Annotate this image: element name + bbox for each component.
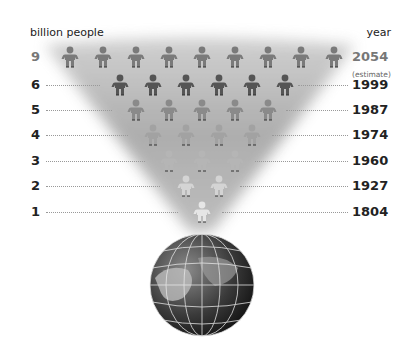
year-column-label: year (366, 26, 391, 39)
person-icon (193, 46, 211, 68)
earth-globe-icon (143, 228, 261, 340)
person-icon (210, 124, 228, 146)
estimate-note: (estimate) (352, 70, 391, 79)
billions-label: 2 (31, 176, 40, 196)
person-icon (177, 175, 195, 197)
person-icon (226, 150, 244, 172)
billions-label: 4 (31, 125, 40, 145)
population-row: 31960 (0, 151, 405, 171)
person-icon (193, 99, 211, 121)
person-icon (292, 46, 310, 68)
person-icon (243, 124, 261, 146)
year-label: 1974 (352, 125, 388, 145)
person-icon (226, 46, 244, 68)
person-icon (276, 74, 294, 96)
person-icon (127, 99, 145, 121)
population-row: 41974 (0, 125, 405, 145)
population-row: 92054 (0, 47, 405, 67)
dotted-leader-right (240, 186, 348, 187)
person-icon (210, 175, 228, 197)
dotted-leader-right (272, 135, 348, 136)
person-icon (259, 99, 277, 121)
dotted-leader-left (46, 186, 160, 187)
dotted-leader-left (46, 110, 112, 111)
person-icon (94, 46, 112, 68)
dotted-leader-right (222, 212, 348, 213)
person-icon (259, 46, 277, 68)
year-label: 1960 (352, 151, 388, 171)
population-row: 61999 (0, 75, 405, 95)
year-label: 1804 (352, 202, 388, 222)
person-icon (243, 74, 261, 96)
population-row: 51987 (0, 100, 405, 120)
year-label: 1987 (352, 100, 388, 120)
person-icon (144, 74, 162, 96)
dotted-leader-left (46, 212, 178, 213)
person-icon (226, 99, 244, 121)
person-icon (111, 74, 129, 96)
billions-label: 6 (31, 75, 40, 95)
person-icon (177, 124, 195, 146)
person-icon (127, 46, 145, 68)
billions-label: 1 (31, 202, 40, 222)
billions-label: 5 (31, 100, 40, 120)
person-icon (210, 74, 228, 96)
person-icon (193, 150, 211, 172)
dotted-leader-right (255, 161, 348, 162)
dotted-leader-left (46, 161, 145, 162)
billions-label: 9 (31, 47, 40, 67)
person-icon (144, 124, 162, 146)
person-icon (177, 74, 195, 96)
y-axis-label: billion people (30, 26, 104, 39)
person-icon (160, 99, 178, 121)
population-row: 11804 (0, 202, 405, 222)
person-icon (61, 46, 79, 68)
person-icon (160, 46, 178, 68)
person-icon (160, 150, 178, 172)
year-label: 1927 (352, 176, 388, 196)
population-row: 21927 (0, 176, 405, 196)
person-icon (193, 201, 211, 223)
dotted-leader-left (46, 85, 100, 86)
billions-label: 3 (31, 151, 40, 171)
dotted-leader-left (46, 135, 128, 136)
person-icon (325, 46, 343, 68)
dotted-leader-right (286, 110, 348, 111)
dotted-leader-right (298, 85, 348, 86)
year-label: 2054 (352, 47, 388, 67)
